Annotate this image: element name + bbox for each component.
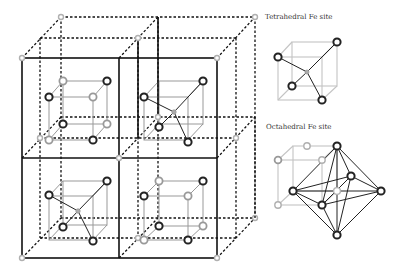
subcube-top-right — [144, 81, 203, 142]
fe-icon — [305, 70, 309, 74]
tetrahedral-site-inset — [274, 38, 340, 103]
subcube-bottom-right — [144, 181, 203, 240]
spinel-lattice-diagram — [0, 0, 403, 275]
subcube-bottom-left — [49, 181, 107, 241]
fe-center-icon — [334, 188, 341, 195]
octahedral-site-inset — [275, 142, 385, 238]
subcube-top-left — [49, 81, 107, 140]
